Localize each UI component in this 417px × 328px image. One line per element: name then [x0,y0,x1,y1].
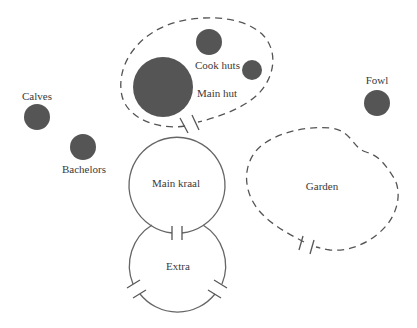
kraal-extra-gate [172,226,182,240]
fowl-label: Fowl [366,74,389,86]
extra-gate-left [127,280,146,298]
hut-enclosure-gate [180,115,199,133]
calves-label: Calves [22,90,52,102]
calves-circle [24,104,50,130]
main-kraal-label: Main kraal [152,177,200,189]
extra-outline-bottom [140,294,215,312]
bachelors-label: Bachelors [62,163,106,175]
cook-hut-circle-1 [196,29,222,55]
extra-outline-upper-left [129,225,152,284]
extra-gate-right [208,280,227,298]
garden-gate [299,236,314,254]
homestead-diagram: Cook huts Main hut Calves Bachelors Fowl… [0,0,417,328]
cook-huts-label: Cook huts [195,59,240,71]
extra-outline-upper-right [203,225,226,284]
main-hut-circle [133,57,193,117]
bachelors-circle [70,134,96,160]
main-hut-label: Main hut [197,87,237,99]
garden-label: Garden [306,180,339,192]
cook-hut-circle-2 [242,60,262,80]
extra-label: Extra [166,260,190,272]
fowl-circle [364,90,390,116]
